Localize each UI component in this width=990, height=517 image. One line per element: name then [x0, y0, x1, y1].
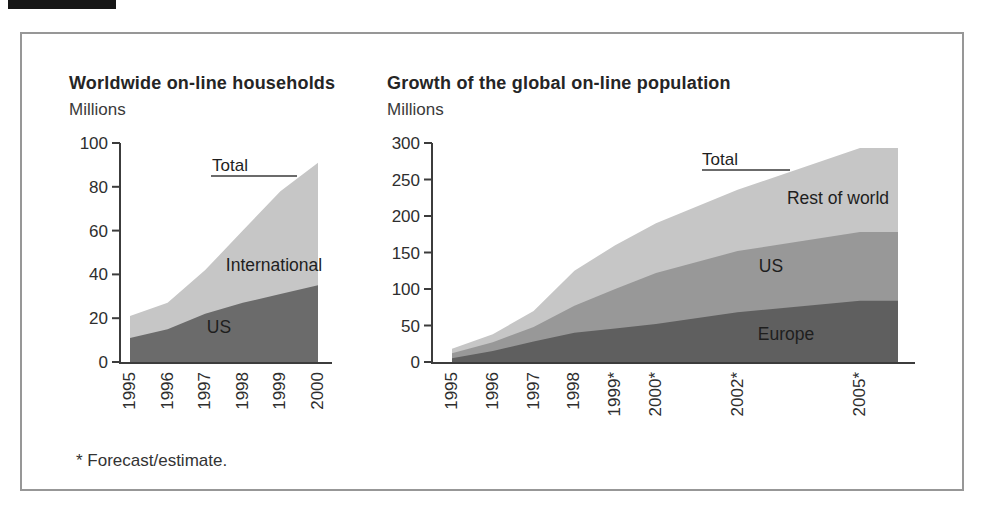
series-label-us: US — [207, 317, 231, 337]
y-tick-label: 100 — [80, 134, 108, 153]
x-tick-label: 1999* — [605, 372, 624, 417]
y-tick-label: 250 — [392, 171, 420, 190]
x-tick-label: 1998 — [564, 372, 583, 410]
x-tick-label: 2002* — [728, 372, 747, 417]
x-tick-label: 1995 — [120, 372, 139, 410]
y-tick-label: 20 — [89, 309, 108, 328]
charts-canvas: 020406080100199519961997199819992000Tota… — [0, 0, 990, 517]
y-tick-label: 40 — [89, 265, 108, 284]
x-tick-label: 1997 — [524, 372, 543, 410]
total-label: Total — [212, 156, 248, 175]
y-tick-label: 150 — [392, 244, 420, 263]
y-tick-label: 60 — [89, 222, 108, 241]
y-tick-label: 0 — [99, 353, 108, 372]
x-tick-label: 2005* — [850, 372, 869, 417]
x-tick-label: 1996 — [158, 372, 177, 410]
y-tick-label: 100 — [392, 280, 420, 299]
y-tick-label: 300 — [392, 134, 420, 153]
x-tick-label: 1995 — [442, 372, 461, 410]
y-tick-label: 200 — [392, 207, 420, 226]
series-label-international: International — [226, 255, 322, 275]
y-tick-label: 50 — [401, 317, 420, 336]
total-label: Total — [702, 150, 738, 169]
series-label-us: US — [759, 256, 783, 276]
x-tick-label: 1996 — [483, 372, 502, 410]
x-tick-label: 2000* — [646, 372, 665, 417]
x-tick-label: 1998 — [233, 372, 252, 410]
x-tick-label: 1997 — [195, 372, 214, 410]
x-tick-label: 1999 — [270, 372, 289, 410]
y-tick-label: 80 — [89, 178, 108, 197]
x-tick-label: 2000 — [308, 372, 327, 410]
y-tick-label: 0 — [411, 353, 420, 372]
series-label-rest-of-world: Rest of world — [787, 188, 889, 208]
series-label-europe: Europe — [758, 324, 814, 344]
